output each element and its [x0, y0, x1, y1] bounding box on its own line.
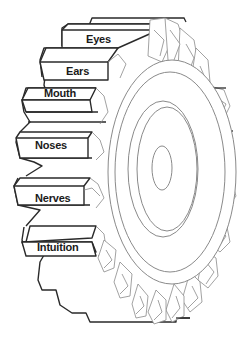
tooth-eyes [62, 24, 160, 48]
tooth-label-mouth: Mouth [44, 88, 76, 99]
tooth-label-intuition: Intuition [37, 242, 79, 253]
tooth-label-noses: Noses [35, 140, 67, 151]
tooth-label-eyes: Eyes [86, 34, 111, 45]
gear-diagram [0, 0, 251, 338]
tooth-label-ears: Ears [66, 66, 89, 77]
gear-face [108, 60, 236, 284]
tooth-label-nerves: Nerves [35, 193, 71, 204]
